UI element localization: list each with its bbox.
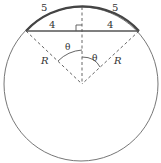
radius-label-left: R	[40, 55, 49, 66]
half-chord-label-right: 4	[107, 19, 113, 30]
radius-left-dashed	[26, 31, 82, 84]
angle-label-left: θ	[65, 42, 70, 52]
angle-label-right: θ	[92, 53, 97, 63]
radius-right-dashed	[82, 31, 139, 84]
radius-label-right: R	[113, 55, 122, 66]
right-angle-marker	[76, 25, 82, 31]
arc-label-left: 5	[41, 2, 47, 13]
circle-chord-diagram: 5 5 4 4 θ θ R R	[0, 0, 161, 163]
arc-label-right: 5	[112, 2, 118, 13]
half-chord-label-left: 4	[49, 19, 55, 30]
